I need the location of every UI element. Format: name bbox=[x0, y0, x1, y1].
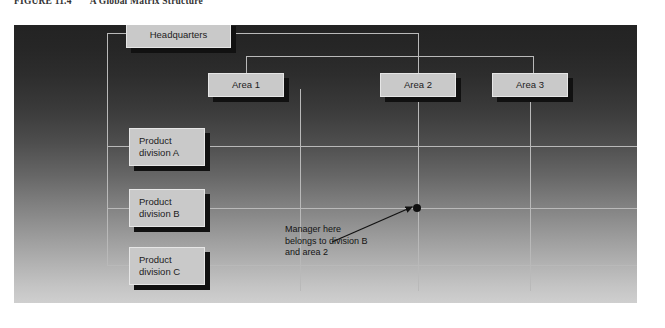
node-area-2-label: Area 2 bbox=[404, 79, 432, 91]
node-area-1[interactable]: Area 1 bbox=[208, 73, 284, 97]
diagram-panel: Headquarters Area 1 Area 2 Area 3 Produc… bbox=[14, 25, 637, 303]
figure-caption: FIGURE 11.4 A Global Matrix Structure bbox=[14, 0, 514, 8]
connector-stub-division-a bbox=[107, 146, 129, 147]
node-division-c-label-line1: Product bbox=[139, 254, 204, 266]
node-division-a-label-line2: division A bbox=[139, 147, 204, 159]
node-division-b-label-line1: Product bbox=[139, 196, 204, 208]
node-division-a[interactable]: Product division A bbox=[129, 128, 205, 166]
annotation-line-3: and area 2 bbox=[285, 247, 368, 259]
connector-drop-area-3 bbox=[533, 56, 534, 73]
connector-area-trunk bbox=[418, 33, 419, 56]
node-area-1-label: Area 1 bbox=[232, 79, 260, 91]
connector-stub-division-c bbox=[107, 265, 129, 266]
annotation-line-1: Manager here bbox=[285, 224, 368, 236]
annotation-text: Manager here belongs to division B and a… bbox=[285, 224, 368, 259]
matrix-intersection-dot bbox=[413, 204, 421, 212]
node-headquarters-label: Headquarters bbox=[150, 29, 208, 41]
node-division-a-label-line1: Product bbox=[139, 135, 204, 147]
matrix-vline-area-1 bbox=[300, 89, 301, 291]
connector-area-bus bbox=[246, 56, 533, 57]
figure-title: A Global Matrix Structure bbox=[90, 0, 203, 6]
node-area-3[interactable]: Area 3 bbox=[492, 73, 568, 97]
matrix-vline-area-2 bbox=[418, 89, 419, 291]
node-area-3-label: Area 3 bbox=[516, 79, 544, 91]
node-division-c[interactable]: Product division C bbox=[129, 247, 205, 285]
node-area-2[interactable]: Area 2 bbox=[380, 73, 456, 97]
connector-left-spine bbox=[107, 33, 108, 266]
figure-number: FIGURE 11.4 bbox=[14, 0, 72, 6]
figure-screenshot: FIGURE 11.4 A Global Matrix Structure bbox=[0, 0, 665, 328]
annotation-line-2: belongs to division B bbox=[285, 236, 368, 248]
connector-drop-area-2 bbox=[418, 56, 419, 73]
node-division-b[interactable]: Product division B bbox=[129, 189, 205, 227]
connector-stub-division-b bbox=[107, 208, 129, 209]
node-division-b-label-line2: division B bbox=[139, 208, 204, 220]
connector-drop-area-1 bbox=[246, 56, 247, 73]
matrix-vline-area-3 bbox=[530, 89, 531, 291]
node-division-c-label-line2: division C bbox=[139, 266, 204, 278]
node-headquarters[interactable]: Headquarters bbox=[126, 25, 231, 48]
